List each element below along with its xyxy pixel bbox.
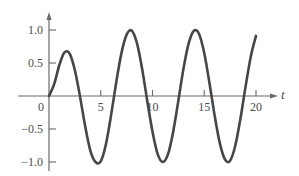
x-axis-arrow-icon	[270, 93, 278, 98]
line-chart: 051015201.00.5−0.5−1.0 t	[0, 0, 299, 176]
y-tick-label: −1.0	[21, 155, 43, 169]
y-tick-label: 1.0	[28, 23, 43, 37]
y-axis-arrow-icon	[46, 12, 51, 20]
y-tick-label: 0.5	[28, 56, 43, 70]
y-tick-label: −0.5	[21, 122, 43, 136]
data-curve	[49, 30, 256, 163]
axes	[18, 12, 278, 171]
x-tick-label: 20	[250, 100, 262, 114]
x-axis-label: t	[281, 87, 285, 102]
x-tick-label: 0	[38, 100, 44, 114]
x-tick-label: 15	[198, 100, 210, 114]
x-tick-label: 5	[98, 100, 104, 114]
